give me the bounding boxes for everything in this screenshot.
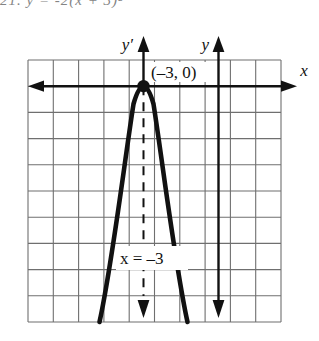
- parabola-graph: y′ y x (–3, 0) x = –3: [0, 0, 319, 341]
- y-axis-down-arrowhead: [213, 300, 225, 318]
- problem-equation-cutoff: 21. y = -2(x + 3)²: [0, 0, 319, 8]
- x-axis-right-arrowhead: [281, 81, 297, 92]
- y-axis-label: y: [199, 35, 209, 54]
- x-axis: [28, 81, 297, 92]
- vertex-coordinate-label: (–3, 0): [151, 63, 196, 82]
- grid: [28, 60, 281, 322]
- y-axis-up-arrowhead: [213, 36, 225, 52]
- vertex-point-marker: [137, 80, 149, 92]
- y-prime-axis-up-arrowhead: [138, 36, 150, 52]
- figure-container: 21. y = -2(x + 3)²: [0, 0, 319, 341]
- x-axis-label: x: [299, 61, 308, 80]
- y-prime-axis-down-arrowhead: [138, 300, 150, 318]
- y-axis: [213, 36, 225, 318]
- y-prime-axis-label: y′: [120, 35, 134, 54]
- x-axis-left-arrowhead: [28, 81, 44, 92]
- axis-of-symmetry-label: x = –3: [120, 249, 164, 268]
- y-prime-axis: [138, 36, 150, 318]
